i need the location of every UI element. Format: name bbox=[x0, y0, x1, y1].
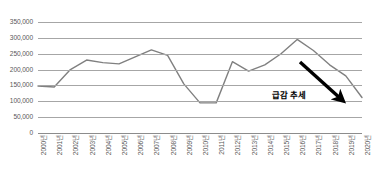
x-tick-label: 2018년 bbox=[330, 135, 337, 155]
x-tick-label: 2016년 bbox=[297, 135, 304, 155]
x-tick-label: 2002년 bbox=[70, 135, 77, 155]
y-tick-label: 250,000 bbox=[10, 50, 33, 57]
line-chart: 350,000300,000250,000200,000150,000100,0… bbox=[0, 0, 374, 178]
y-tick-label: 0 bbox=[29, 130, 33, 137]
annotation-label: 급감 추세 bbox=[272, 91, 306, 99]
x-tick-label: 2003년 bbox=[87, 135, 94, 155]
y-tick-label: 50,000 bbox=[13, 114, 33, 121]
gridline bbox=[38, 117, 362, 118]
x-tick-label: 2014년 bbox=[265, 135, 272, 155]
x-tick-label: 2010년 bbox=[200, 135, 207, 155]
x-tick-label: 2008년 bbox=[168, 135, 175, 155]
x-tick-label: 2017년 bbox=[313, 135, 320, 155]
x-tick-label: 2005년 bbox=[119, 135, 126, 155]
x-tick-label: 2013년 bbox=[249, 135, 256, 155]
gridline bbox=[38, 85, 362, 86]
y-tick-label: 200,000 bbox=[10, 66, 33, 73]
gridline bbox=[38, 38, 362, 39]
x-tick-label: 2015년 bbox=[281, 135, 288, 155]
axis-baseline bbox=[38, 133, 362, 134]
plot-area bbox=[38, 22, 362, 133]
x-tick-label: 2020년 bbox=[362, 135, 369, 155]
y-tick-label: 150,000 bbox=[10, 82, 33, 89]
x-tick-label: 2007년 bbox=[151, 135, 158, 155]
gridline bbox=[38, 54, 362, 55]
y-axis: 350,000300,000250,000200,000150,000100,0… bbox=[0, 0, 36, 178]
gridline bbox=[38, 22, 362, 23]
y-tick-label: 350,000 bbox=[10, 19, 33, 26]
y-tick-label: 100,000 bbox=[10, 98, 33, 105]
gridline bbox=[38, 101, 362, 102]
x-tick-label: 2019년 bbox=[346, 135, 353, 155]
x-tick-label: 2000년 bbox=[38, 135, 45, 155]
y-tick-label: 300,000 bbox=[10, 35, 33, 42]
x-axis: 2000년2001년2002년2003년2004년2005년2006년2007년… bbox=[38, 135, 362, 178]
x-tick-label: 2012년 bbox=[232, 135, 239, 155]
x-tick-label: 2009년 bbox=[184, 135, 191, 155]
x-tick-label: 2004년 bbox=[103, 135, 110, 155]
x-tick-label: 2006년 bbox=[135, 135, 142, 155]
x-tick-label: 2011년 bbox=[216, 135, 223, 155]
gridline bbox=[38, 70, 362, 71]
x-tick-label: 2001년 bbox=[54, 135, 61, 155]
